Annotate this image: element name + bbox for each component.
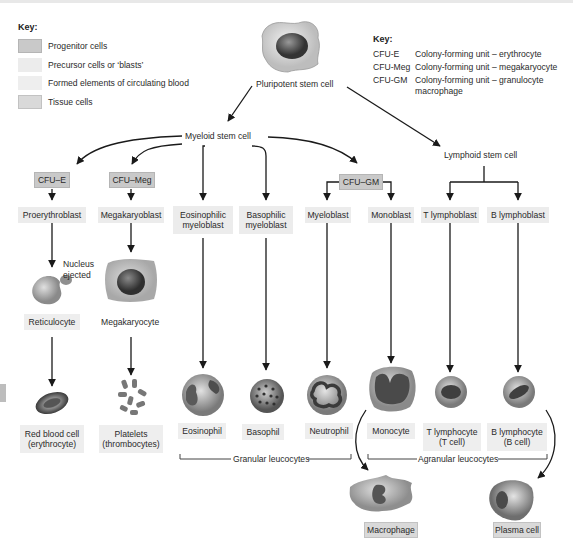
plasma-cell-illustration (486, 476, 536, 522)
lymphoid-stem-cell-label: Lymphoid stem cell (444, 150, 517, 161)
basophilic-myeloblast-box: Basophilic myeloblast (239, 206, 293, 234)
box-line2: myeloblast (245, 220, 286, 231)
eosinophil-illustration (180, 372, 226, 418)
abbr: CFU-Meg (373, 62, 415, 73)
abbr-row-cfu-e: CFU-E Colony-forming unit – erythrocyte (373, 49, 542, 60)
reticulocyte-box: Reticulocyte (24, 314, 80, 330)
t-lymphocyte-illustration (433, 374, 469, 410)
label-line2: ejected (63, 270, 94, 281)
red-blood-cell-box: Red blood cell (erythrocyte) (20, 425, 84, 453)
key-right-title: Key: (373, 34, 393, 44)
abbr-desc: Colony-forming unit – erythrocyte (415, 49, 542, 60)
neutrophil-illustration (305, 373, 349, 417)
key-item-precursor: Precursor cells or ‘blasts’ (18, 58, 144, 72)
nucleus-ejected-label: Nucleus ejected (63, 259, 94, 280)
abbr-desc-line2: macrophage (415, 86, 544, 97)
key-item-tissue: Tissue cells (18, 95, 93, 109)
macrophage-box: Macrophage (364, 522, 418, 538)
plasma-cell-box: Plasma cell (493, 522, 541, 538)
neutrophil-box: Neutrophil (305, 423, 353, 439)
key-left-title: Key: (18, 22, 38, 32)
box-line1: Red blood cell (25, 429, 79, 440)
b-lymphocyte-illustration (500, 374, 538, 410)
box-line1: B lymphocyte (491, 427, 543, 438)
monoblast-box: Monoblast (368, 207, 414, 223)
abbr-row-cfu-gm: CFU-GM Colony-forming unit – granulocyte… (373, 75, 544, 96)
abbr: CFU-GM (373, 75, 415, 96)
abbr-desc-line1: Colony-forming unit – granulocyte (415, 75, 544, 86)
formed-swatch (18, 76, 42, 90)
basophil-box: Basophil (242, 424, 284, 440)
eosinophilic-myeloblast-box: Eosinophilic myeloblast (173, 206, 233, 234)
box-line2: (B cell) (504, 437, 531, 448)
label-line1: Nucleus (63, 259, 94, 270)
tissue-swatch (18, 95, 42, 109)
progenitor-swatch (18, 39, 42, 53)
proerythroblast-box: Proerythroblast (18, 207, 86, 223)
key-item-progenitor: Progenitor cells (18, 39, 107, 53)
pluripotent-stem-cell-illustration (258, 18, 324, 74)
cfu-meg-box: CFU–Meg (109, 172, 155, 188)
box-line2: (erythrocyte) (28, 439, 76, 450)
box-line2: myeloblast (182, 220, 223, 231)
megakaryocyte-label: Megakaryocyte (101, 317, 159, 328)
abbr: CFU-E (373, 49, 415, 60)
t-lymphoblast-box: T lymphoblast (421, 207, 479, 223)
box-line1: Eosinophilic (180, 210, 226, 221)
t-lymphocyte-box: T lymphocyte (T cell) (423, 423, 481, 451)
platelets-box: Platelets (thrombocytes) (99, 425, 163, 453)
key-item-label: Tissue cells (48, 97, 93, 107)
myeloblast-box: Myeloblast (305, 207, 351, 223)
megakaryoblast-box: Megakaryoblast (98, 207, 164, 223)
abbr-desc: Colony-forming unit – granulocyte macrop… (415, 75, 544, 96)
box-line2: (thrombocytes) (102, 439, 159, 450)
basophil-illustration (248, 377, 286, 415)
cfu-e-box: CFU–E (34, 172, 70, 188)
agranular-leucocytes-label: Agranular leucocytes (418, 454, 498, 465)
key-item-label: Formed elements of circulating blood (48, 78, 189, 88)
granular-leucocytes-label: Granular leucocytes (233, 454, 309, 465)
abbr-desc: Colony-forming unit – megakaryocyte (415, 62, 557, 73)
b-lymphocyte-box: B lymphocyte (B cell) (487, 423, 547, 451)
eosinophil-box: Eosinophil (178, 423, 226, 439)
myeloid-stem-cell-label: Myeloid stem cell (185, 131, 251, 142)
abbr-row-cfu-meg: CFU-Meg Colony-forming unit – megakaryoc… (373, 62, 557, 73)
cfu-gm-box: CFU–GM (339, 174, 383, 190)
key-item-formed: Formed elements of circulating blood (18, 76, 189, 90)
box-line2: (T cell) (439, 437, 465, 448)
platelets-illustration (114, 378, 150, 418)
pluripotent-stem-cell-label: Pluripotent stem cell (256, 79, 333, 90)
macrophage-illustration (346, 473, 418, 515)
red-blood-cell-illustration (34, 390, 70, 416)
box-line1: Platelets (115, 429, 148, 440)
box-line1: T lymphocyte (427, 427, 478, 438)
monocyte-box: Monocyte (367, 423, 415, 439)
box-line1: Basophilic (246, 210, 285, 221)
key-item-label: Precursor cells or ‘blasts’ (48, 60, 144, 70)
key-item-label: Progenitor cells (48, 41, 107, 51)
megakaryocyte-illustration (102, 255, 160, 305)
b-lymphoblast-box: B lymphoblast (487, 207, 549, 223)
monocyte-illustration (366, 363, 418, 413)
precursor-swatch (18, 58, 42, 72)
